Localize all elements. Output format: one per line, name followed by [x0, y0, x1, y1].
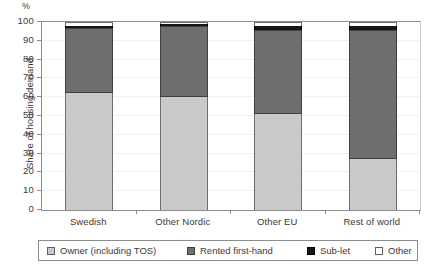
- legend-swatch-icon: [187, 247, 195, 255]
- bar-segment-owner-including-tos: [349, 159, 397, 210]
- y-tick-label: 100: [4, 15, 34, 26]
- y-tick-label: 90: [4, 34, 34, 45]
- x-tick-mark: [136, 210, 137, 214]
- y-tick-label: 50: [4, 109, 34, 120]
- x-tick-mark: [419, 210, 420, 214]
- bar-segment-rented-first-hand: [349, 30, 397, 160]
- bar-rest-of-world: [349, 22, 397, 210]
- y-tick-label: 60: [4, 90, 34, 101]
- x-tick-label: Rest of world: [325, 216, 419, 227]
- x-tick-mark: [325, 210, 326, 214]
- legend-item-rented-first-hand[interactable]: Rented first-hand: [187, 245, 273, 256]
- legend-swatch-icon: [375, 247, 383, 255]
- legend-swatch-icon: [307, 247, 315, 255]
- bar-swedish: [65, 22, 113, 210]
- y-tick-label: 40: [4, 128, 34, 139]
- chart-legend: Owner (including TOS)Rented first-handSu…: [38, 240, 418, 261]
- bar-segment-rented-first-hand: [160, 26, 208, 97]
- y-axis-unit-label: %: [22, 1, 30, 11]
- plot-area: [41, 21, 421, 211]
- bar-segment-rented-first-hand: [65, 28, 113, 94]
- legend-item-sub-let[interactable]: Sub-let: [307, 245, 350, 256]
- legend-label: Other: [388, 245, 412, 256]
- legend-label: Rented first-hand: [200, 245, 273, 256]
- y-tick-label: 70: [4, 71, 34, 82]
- legend-swatch-icon: [47, 247, 55, 255]
- legend-item-owner-including-tos[interactable]: Owner (including TOS): [47, 245, 156, 256]
- bar-segment-owner-including-tos: [254, 114, 302, 210]
- x-tick-mark: [230, 210, 231, 214]
- y-tick-label: 20: [4, 165, 34, 176]
- x-tick-label: Other Nordic: [136, 216, 230, 227]
- stacked-bar-chart: % Share of housing demand 01020304050607…: [0, 0, 427, 266]
- y-tick-label: 30: [4, 147, 34, 158]
- legend-label: Owner (including TOS): [60, 245, 156, 256]
- legend-item-other[interactable]: Other: [375, 245, 412, 256]
- legend-label: Sub-let: [320, 245, 350, 256]
- y-tick-label: 0: [4, 203, 34, 214]
- y-tick-label: 10: [4, 184, 34, 195]
- x-tick-label: Other EU: [230, 216, 324, 227]
- bar-other-eu: [254, 22, 302, 210]
- bar-segment-owner-including-tos: [65, 93, 113, 210]
- bar-other-nordic: [160, 22, 208, 210]
- bar-segment-rented-first-hand: [254, 30, 302, 115]
- bar-segment-owner-including-tos: [160, 97, 208, 210]
- x-tick-label: Swedish: [41, 216, 135, 227]
- y-tick-label: 80: [4, 53, 34, 64]
